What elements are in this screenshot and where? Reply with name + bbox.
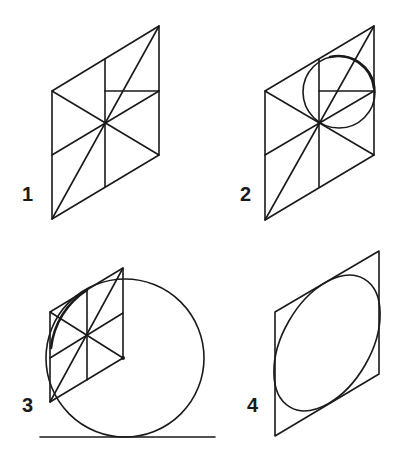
step-label-1: 1 — [22, 183, 33, 205]
highlighted-arc-2 — [330, 56, 374, 88]
figure-1: 1 — [22, 26, 159, 219]
center-point-3 — [121, 356, 125, 360]
step-label-3: 3 — [22, 394, 33, 416]
figure-4: 4 — [247, 251, 401, 436]
step-label-2: 2 — [240, 183, 251, 205]
step-label-4: 4 — [247, 394, 259, 416]
diagram-canvas: 1 2 3 4 — [0, 0, 401, 460]
figure-3: 3 — [22, 268, 215, 437]
figure-2: 2 — [240, 26, 375, 220]
